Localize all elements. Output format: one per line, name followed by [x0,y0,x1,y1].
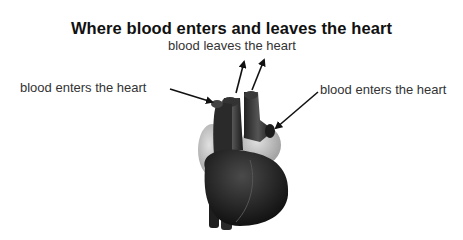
heart-illustration [198,91,288,230]
arrow-enters-right [276,92,318,128]
arrow-leaves-1 [236,62,244,93]
arrow-leaves-2 [252,60,264,90]
arrow-enters-left [170,89,212,102]
heart-diagram [0,0,463,240]
